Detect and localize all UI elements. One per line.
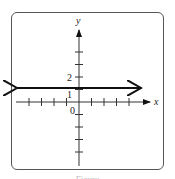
figure-caption: Figure	[0, 174, 175, 179]
origin-label: 0	[70, 105, 75, 116]
y-axis-label: y	[75, 15, 81, 26]
tick-label-1: 1	[67, 89, 72, 100]
coordinate-plane: y x 2 1 0	[0, 0, 175, 179]
tick-label-2: 2	[67, 72, 72, 83]
x-axis-label: x	[153, 96, 159, 107]
